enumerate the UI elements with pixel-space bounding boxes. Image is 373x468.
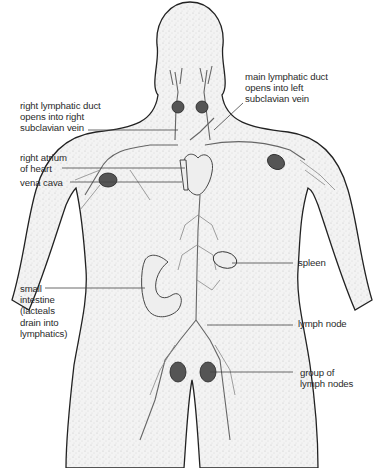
label-vena-cava: vena cava (20, 177, 63, 188)
inguinal-lymph-node-right (170, 362, 186, 382)
axillary-lymph-node-right (99, 173, 117, 187)
label-small-intestine: small intestine (lacteals drain into lym… (20, 283, 67, 339)
label-lymph-node: lymph node (298, 318, 347, 329)
neck-lymph-node-left (196, 101, 208, 113)
label-main-lymphatic-duct: main lymphatic duct opens into left subc… (245, 71, 328, 105)
neck-lymph-node-right (172, 101, 184, 113)
label-spleen: spleen (298, 257, 326, 268)
label-group-of-lymph-nodes: group of lymph nodes (300, 367, 353, 389)
label-right-atrium: right atrium of heart (20, 152, 67, 174)
label-right-lymphatic-duct: right lymphatic duct opens into right su… (20, 100, 101, 134)
